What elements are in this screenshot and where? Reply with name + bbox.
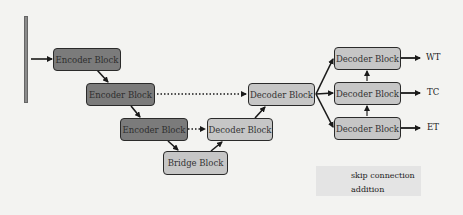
legend: skip connection addition (316, 166, 421, 196)
decoder-block-2: Decoder Block (248, 83, 315, 106)
output-label-et: ET (427, 122, 439, 132)
encoder-block-1: Encoder Block (53, 48, 121, 71)
decoder-head-wt: Decoder Block (334, 47, 401, 70)
encoder-block-2: Encoder Block (86, 83, 155, 106)
decoder-head-et: Decoder Block (334, 117, 401, 140)
block-label: Bridge Block (168, 158, 224, 168)
legend-label: skip connection (351, 171, 415, 180)
block-label: Decoder Block (209, 125, 272, 135)
decoder-head-tc: Decoder Block (334, 82, 401, 105)
block-label: Encoder Block (123, 125, 186, 135)
block-label: Decoder Block (336, 124, 399, 134)
output-label-tc: TC (427, 87, 439, 97)
block-label: Decoder Block (336, 89, 399, 99)
block-label: Decoder Block (250, 90, 313, 100)
bridge-block: Bridge Block (163, 151, 228, 175)
legend-skip-connection: skip connection (351, 171, 415, 180)
architecture-diagram: Encoder Block Encoder Block Encoder Bloc… (0, 0, 463, 215)
block-label: Encoder Block (56, 55, 119, 65)
legend-addition: addition (351, 185, 384, 194)
block-label: Encoder Block (89, 90, 152, 100)
encoder-block-3: Encoder Block (120, 118, 188, 141)
output-label-wt: WT (426, 52, 440, 62)
legend-label: addition (351, 185, 384, 194)
block-label: Decoder Block (336, 54, 399, 64)
decoder-block-3: Decoder Block (207, 118, 273, 141)
